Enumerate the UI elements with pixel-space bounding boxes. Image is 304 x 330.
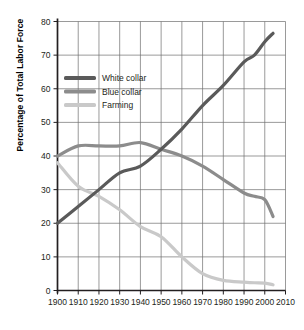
legend-swatch-farming [64, 103, 96, 107]
x-tick-label: 1940 [131, 297, 150, 307]
x-tick-label: 1930 [110, 297, 129, 307]
x-tick-label: 1950 [152, 297, 171, 307]
x-tick-labels: 1900191019201930194019501960197019801990… [48, 291, 295, 307]
y-tick-label: 40 [41, 151, 51, 161]
y-tick-label: 0 [46, 286, 51, 296]
y-tick-label: 60 [41, 84, 51, 94]
y-tick-labels: 01020304050607080 [41, 17, 57, 296]
x-tick-label: 1960 [172, 297, 191, 307]
x-tick-label: 2000 [255, 297, 274, 307]
x-tick-label: 1910 [69, 297, 88, 307]
legend-swatch-white-collar [64, 76, 96, 80]
series-line-white-collar [58, 33, 274, 223]
legend-label-farming: Farming [102, 100, 133, 110]
y-tick-label: 80 [41, 17, 51, 27]
grid-lines [58, 22, 286, 291]
y-tick-label: 10 [41, 252, 51, 262]
y-tick-label: 70 [41, 50, 51, 60]
x-tick-label: 1970 [193, 297, 212, 307]
x-tick-label: 1900 [48, 297, 67, 307]
legend-swatch-blue-collar [64, 89, 96, 93]
series-line-blue-collar [58, 142, 274, 216]
y-tick-label: 20 [41, 218, 51, 228]
legend-label-white-collar: White collar [102, 73, 147, 83]
series-line-farming [58, 163, 274, 285]
line-chart: 01020304050607080 1900191019201930194019… [0, 0, 304, 330]
x-tick-label: 1920 [89, 297, 108, 307]
chart-legend: White collarBlue collarFarming [64, 73, 147, 110]
x-tick-label: 2010 [276, 297, 295, 307]
y-tick-label: 30 [41, 185, 51, 195]
legend-label-blue-collar: Blue collar [102, 87, 142, 97]
y-tick-label: 50 [41, 117, 51, 127]
x-tick-label: 1980 [214, 297, 233, 307]
chart-figure: Percentage of Total Labor Force 01020304… [0, 0, 304, 330]
data-series [58, 33, 274, 285]
x-tick-label: 1990 [235, 297, 254, 307]
